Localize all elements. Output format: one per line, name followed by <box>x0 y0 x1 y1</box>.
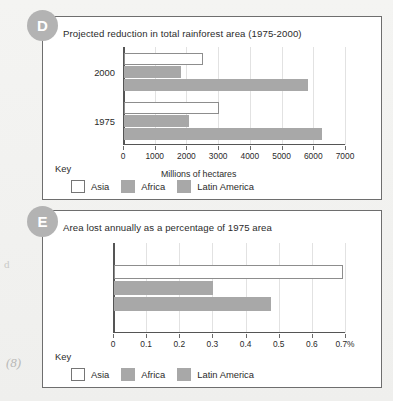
x-axis-tick <box>123 146 124 150</box>
x-axis-tick-label: 0 <box>111 339 116 349</box>
x-axis-tick <box>146 334 147 338</box>
category-label: 2000 <box>43 66 115 77</box>
x-axis-tick-label: 0.2 <box>173 339 185 349</box>
bar-asia <box>114 265 343 279</box>
panel-badge-e: E <box>27 206 58 237</box>
legend-item: Latin America <box>177 180 266 193</box>
legend-swatch-latin <box>177 180 191 193</box>
x-axis-tick <box>282 146 283 150</box>
x-axis-tick <box>179 334 180 338</box>
x-axis-tick-label: 0.3 <box>207 339 219 349</box>
legend-label: Africa <box>141 369 165 380</box>
x-axis-tick-label: 1000 <box>145 151 164 161</box>
x-axis-tick-label: 7000 <box>336 151 355 161</box>
bar-latin <box>124 128 322 140</box>
legend-swatch-africa <box>121 368 135 381</box>
x-axis-tick-label: 5000 <box>272 151 291 161</box>
x-axis-tick-label: 6000 <box>304 151 323 161</box>
x-axis-tick <box>313 146 314 150</box>
legend-label: Asia <box>91 181 109 192</box>
bar-latin <box>124 79 308 91</box>
x-axis-tick <box>345 146 346 150</box>
bar-africa <box>124 115 189 127</box>
x-axis-tick-label: 3000 <box>209 151 228 161</box>
scanned-page: d (8) Projected reduction in total rainf… <box>0 0 393 401</box>
legend-item: Africa <box>121 180 177 193</box>
legend-label: Latin America <box>197 181 254 192</box>
bar-latin <box>114 297 271 311</box>
legend-item: Africa <box>121 368 177 381</box>
bar-africa <box>114 281 213 295</box>
category-label: 1975 <box>43 115 115 126</box>
chart-panel-e: Area lost annually as a percentage of 19… <box>42 210 382 388</box>
legend-label: Africa <box>141 181 165 192</box>
x-axis-tick-label: 4000 <box>241 151 260 161</box>
x-axis-tick-label: 0 <box>121 151 126 161</box>
x-axis-tick <box>312 334 313 338</box>
plot-area-d <box>123 47 345 145</box>
panel-d-title: Projected reduction in total rainforest … <box>63 28 302 39</box>
x-axis-line <box>113 332 345 334</box>
x-axis-tick <box>345 334 346 338</box>
x-axis-tick-label: 0.5 <box>273 339 285 349</box>
x-axis-tick-label: 0.4 <box>240 339 252 349</box>
bar-asia <box>124 53 203 65</box>
x-axis-title-d: Millions of hectares <box>161 169 236 179</box>
x-axis-tick-label: 0.1 <box>140 339 152 349</box>
legend-swatch-asia <box>71 180 85 193</box>
gridline <box>345 243 346 333</box>
x-axis-tick <box>250 146 251 150</box>
legend-swatch-africa <box>121 180 135 193</box>
gridline <box>279 243 280 333</box>
panel-e-title: Area lost annually as a percentage of 19… <box>63 222 272 233</box>
x-axis-tick-label: 0.6 <box>306 339 318 349</box>
legend-swatch-latin <box>177 368 191 381</box>
chart-panel-d: Projected reduction in total rainforest … <box>42 16 382 200</box>
x-axis-line <box>123 144 345 146</box>
legend-item: Asia <box>71 368 121 381</box>
bar-asia <box>124 102 219 114</box>
x-axis-tick <box>279 334 280 338</box>
margin-note-text: d <box>4 258 10 270</box>
x-axis-tick-label: 2000 <box>177 151 196 161</box>
gridline <box>246 243 247 333</box>
x-axis-tick <box>246 334 247 338</box>
key-label-e: Key <box>55 351 71 362</box>
gridline <box>345 47 346 145</box>
x-axis-tick <box>155 146 156 150</box>
x-axis-tick <box>212 334 213 338</box>
legend-item: Latin America <box>177 368 266 381</box>
legend-item: Asia <box>71 180 121 193</box>
panel-badge-d: D <box>27 10 58 41</box>
x-axis-tick <box>113 334 114 338</box>
legend-label: Latin America <box>197 369 254 380</box>
legend-d: AsiaAfricaLatin America <box>71 180 266 193</box>
question-marks-label: (8) <box>6 355 21 371</box>
legend-label: Asia <box>91 369 109 380</box>
x-axis-tick-label: 0.7% <box>335 339 354 349</box>
x-axis-tick <box>218 146 219 150</box>
plot-area-e <box>113 243 345 333</box>
key-label-d: Key <box>55 163 71 174</box>
legend-e: AsiaAfricaLatin America <box>71 368 266 381</box>
x-axis-tick <box>186 146 187 150</box>
bar-africa <box>124 66 181 78</box>
gridline <box>312 243 313 333</box>
legend-swatch-asia <box>71 368 85 381</box>
